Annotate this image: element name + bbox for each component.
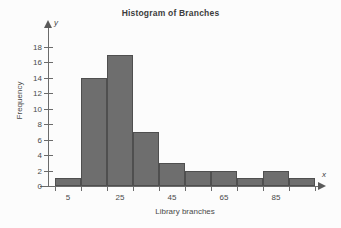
y-axis-tick xyxy=(44,93,53,94)
x-axis-line xyxy=(40,186,320,187)
histogram-screenshot: Histogram of Branches y x 02468101214161… xyxy=(0,0,341,228)
histogram-bar xyxy=(263,171,289,186)
y-axis-line xyxy=(48,27,49,186)
x-axis-tick xyxy=(237,186,238,191)
histogram-bar xyxy=(133,132,159,186)
histogram-bar xyxy=(55,178,81,186)
y-axis-arrow-icon xyxy=(44,20,52,28)
y-axis-tick xyxy=(44,62,53,63)
histogram-bar xyxy=(185,171,211,186)
y-axis-tick xyxy=(44,171,53,172)
x-axis-tick-label: 45 xyxy=(157,193,187,202)
x-axis-tick xyxy=(133,186,134,191)
x-axis-tick xyxy=(55,186,56,191)
x-axis-tick xyxy=(159,186,160,191)
x-axis-title: Library branches xyxy=(55,207,315,216)
x-axis-tick-label: 5 xyxy=(53,193,83,202)
histogram-bar xyxy=(107,55,133,186)
y-axis-tick xyxy=(44,186,53,187)
y-axis-variable-label: y xyxy=(54,18,58,27)
x-axis-tick-label: 85 xyxy=(261,193,291,202)
x-axis-tick xyxy=(263,186,264,191)
x-axis-tick xyxy=(315,186,316,191)
y-axis-tick-label: 0 xyxy=(20,182,42,191)
plot-area xyxy=(55,47,315,186)
x-axis-tick-label: 65 xyxy=(209,193,239,202)
y-axis-tick xyxy=(44,155,53,156)
x-axis-tick-label: 25 xyxy=(105,193,135,202)
y-axis-tick xyxy=(44,47,53,48)
histogram-bar xyxy=(211,171,237,186)
x-axis-tick xyxy=(211,186,212,191)
y-axis-tick xyxy=(44,109,53,110)
y-axis-tick-label: 18 xyxy=(20,43,42,52)
histogram-bar xyxy=(159,163,185,186)
y-axis-tick xyxy=(44,78,53,79)
x-axis-tick xyxy=(81,186,82,191)
chart-title: Histogram of Branches xyxy=(0,8,341,18)
y-axis-tick-label: 2 xyxy=(20,166,42,175)
x-axis-arrow-icon xyxy=(318,182,326,190)
histogram-bar xyxy=(289,178,315,186)
y-axis-title: Frequency xyxy=(15,61,24,141)
x-axis-tick xyxy=(107,186,108,191)
x-axis-tick xyxy=(289,186,290,191)
histogram-bar xyxy=(81,78,107,186)
x-axis-variable-label: x xyxy=(322,170,326,179)
y-axis-tick xyxy=(44,124,53,125)
x-axis-tick xyxy=(185,186,186,191)
y-axis-tick-label: 4 xyxy=(20,151,42,160)
y-axis-tick xyxy=(44,140,53,141)
histogram-bar xyxy=(237,178,263,186)
